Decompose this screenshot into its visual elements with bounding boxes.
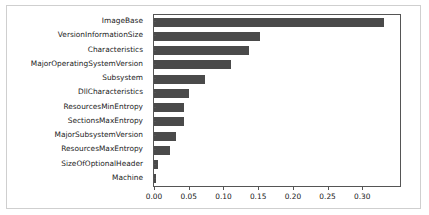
y-tick-mark	[153, 92, 156, 93]
y-tick-mark	[153, 107, 156, 108]
y-tick-mark	[153, 178, 156, 179]
y-tick-label: MajorSubsystemVersion	[55, 128, 143, 142]
y-tick-label: Machine	[112, 171, 143, 185]
y-axis-labels: ImageBaseVersionInformationSizeCharacter…	[7, 14, 149, 187]
bar	[154, 117, 184, 126]
y-tick-mark	[153, 164, 156, 165]
x-tick-mark	[258, 187, 259, 190]
y-tick-mark	[153, 135, 156, 136]
bar	[154, 32, 260, 41]
y-tick-mark	[153, 21, 156, 22]
bar-row	[154, 172, 400, 186]
x-tick-label: 0.20	[285, 192, 301, 201]
x-tick-label: 0.00	[146, 192, 162, 201]
bar-row	[154, 15, 400, 29]
y-tick-label: Subsystem	[102, 71, 143, 85]
bar	[154, 60, 231, 69]
y-tick-mark	[153, 50, 156, 51]
bar-row	[154, 158, 400, 172]
bar-row	[154, 101, 400, 115]
y-tick-label: ResourcesMaxEntropy	[61, 142, 143, 156]
y-tick-label: SizeOfOptionalHeader	[61, 157, 143, 171]
y-tick-mark	[153, 121, 156, 122]
bar-row	[154, 129, 400, 143]
y-tick-label: MajorOperatingSystemVersion	[31, 57, 143, 71]
bar-row	[154, 72, 400, 86]
x-tick-mark	[189, 187, 190, 190]
y-tick-label: SectionsMaxEntropy	[68, 114, 143, 128]
bar-rows	[154, 15, 400, 186]
bar	[154, 160, 158, 169]
x-tick-mark	[154, 187, 155, 190]
x-tick-label: 0.30	[354, 192, 370, 201]
y-tick-label: DllCharacteristics	[78, 85, 143, 99]
y-tick-mark	[153, 78, 156, 79]
y-tick-label: ImageBase	[102, 14, 143, 28]
y-tick-mark	[153, 149, 156, 150]
x-tick-mark	[362, 187, 363, 190]
plot-area	[153, 14, 401, 187]
bar	[154, 174, 156, 183]
x-tick-mark	[293, 187, 294, 190]
bar-row	[154, 58, 400, 72]
y-tick-label: ResourcesMinEntropy	[63, 100, 143, 114]
bar	[154, 75, 205, 84]
bar-row	[154, 44, 400, 58]
x-tick-label: 0.05	[180, 192, 196, 201]
x-tick-mark	[328, 187, 329, 190]
x-tick-label: 0.25	[319, 192, 335, 201]
bar	[154, 132, 176, 141]
y-tick-label: Characteristics	[88, 43, 143, 57]
y-tick-mark	[153, 64, 156, 65]
bar	[154, 46, 249, 55]
bar-row	[154, 143, 400, 157]
y-tick-label: VersionInformationSize	[58, 28, 143, 42]
x-tick-label: 0.15	[250, 192, 266, 201]
bar-row	[154, 115, 400, 129]
bar	[154, 89, 189, 98]
x-tick-label: 0.10	[215, 192, 231, 201]
x-tick-mark	[223, 187, 224, 190]
bar	[154, 18, 384, 27]
bar-row	[154, 29, 400, 43]
y-tick-mark	[153, 35, 156, 36]
figure-panel: ImageBaseVersionInformationSizeCharacter…	[6, 5, 421, 209]
bar	[154, 103, 184, 112]
bar	[154, 146, 170, 155]
bar-row	[154, 86, 400, 100]
